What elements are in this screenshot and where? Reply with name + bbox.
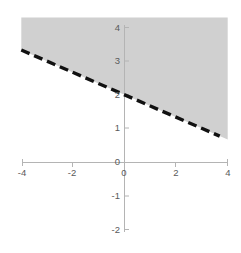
y-tick-label--2: -2 bbox=[112, 225, 120, 235]
y-tick-label--1: -1 bbox=[112, 191, 120, 201]
y-tick-label-1: 1 bbox=[115, 123, 120, 133]
x-tick-label-4: 4 bbox=[225, 168, 230, 178]
y-tick-label-2: 2 bbox=[115, 90, 120, 100]
x-tick-label-2: 2 bbox=[173, 168, 178, 178]
y-tick-label-0: 0 bbox=[115, 157, 120, 167]
inequality-graph: -4 -2 0 2 4 4 3 2 1 0 -1 -2 bbox=[0, 0, 241, 253]
x-tick-label--2: -2 bbox=[68, 168, 76, 178]
y-tick-label-4: 4 bbox=[115, 23, 120, 33]
x-tick-label--4: -4 bbox=[18, 168, 26, 178]
plot-canvas bbox=[0, 0, 241, 253]
y-tick-label-3: 3 bbox=[115, 56, 120, 66]
x-tick-label-0: 0 bbox=[121, 168, 126, 178]
